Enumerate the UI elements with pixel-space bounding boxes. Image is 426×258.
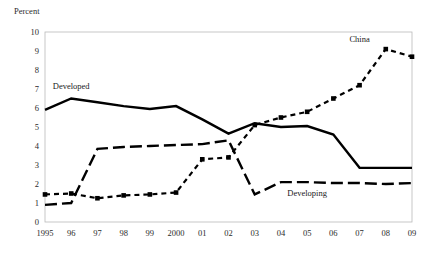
x-tick-label: 1995 <box>37 228 54 238</box>
data-point-marker <box>148 192 153 197</box>
y-tick-label: 0 <box>35 217 39 227</box>
x-tick-label: 98 <box>119 228 128 238</box>
x-tick-label: 96 <box>67 228 76 238</box>
data-point-marker <box>383 47 388 52</box>
y-tick-label: 8 <box>35 65 39 75</box>
x-tick-label: 09 <box>408 228 417 238</box>
data-point-marker <box>95 196 100 201</box>
y-tick-label: 2 <box>35 179 39 189</box>
x-tick-label: 99 <box>146 228 155 238</box>
x-tick-label: 04 <box>277 228 286 238</box>
data-point-marker <box>357 83 362 88</box>
x-tick-label: 03 <box>250 228 259 238</box>
y-tick-label: 1 <box>35 198 39 208</box>
data-point-marker <box>226 155 231 160</box>
y-tick-label: 10 <box>31 27 40 37</box>
x-tick-label: 07 <box>355 228 364 238</box>
series-label-china: China <box>349 34 370 44</box>
x-axis-tick-labels: 1995969798992000010203040506070809 <box>37 228 417 238</box>
y-tick-label: 6 <box>35 103 39 113</box>
series-label-developing: Developing <box>287 188 327 198</box>
x-tick-label: 02 <box>224 228 233 238</box>
data-point-marker <box>252 123 257 128</box>
data-point-marker <box>174 190 179 195</box>
x-tick-label: 05 <box>303 228 312 238</box>
data-point-marker <box>305 110 310 115</box>
x-tick-label: 2000 <box>168 228 185 238</box>
data-point-marker <box>410 54 415 59</box>
chart-container: Percent 012345678910 1995969798992000010… <box>0 0 426 258</box>
y-tick-label: 9 <box>35 46 39 56</box>
series-label-developed: Developed <box>53 81 91 91</box>
x-tick-label: 08 <box>382 228 391 238</box>
x-tick-label: 01 <box>198 228 207 238</box>
y-tick-label: 3 <box>35 160 39 170</box>
data-point-marker <box>43 192 48 197</box>
data-point-marker <box>121 193 126 198</box>
data-point-marker <box>331 96 336 101</box>
y-tick-label: 7 <box>35 84 39 94</box>
line-chart: Percent 012345678910 1995969798992000010… <box>0 0 426 258</box>
y-tick-label: 5 <box>35 122 39 132</box>
data-point-marker <box>200 157 205 162</box>
x-tick-label: 06 <box>329 228 338 238</box>
x-tick-label: 97 <box>93 228 102 238</box>
data-point-marker <box>69 191 74 196</box>
data-point-marker <box>279 115 284 120</box>
y-axis-unit-label: Percent <box>14 6 40 16</box>
